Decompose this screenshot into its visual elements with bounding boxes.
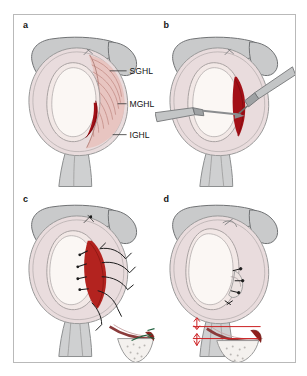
- figure-frame: a: [13, 14, 296, 363]
- panel-a: a: [14, 15, 155, 189]
- panel-d-illustration: [155, 189, 296, 363]
- panel-b-illustration: [155, 15, 296, 189]
- glenoid-articular-surface: [185, 228, 238, 309]
- label-sghl: SGHL: [130, 66, 154, 76]
- panel-d: d: [155, 189, 296, 363]
- panel-c: c: [14, 189, 155, 363]
- figure-panel-group: a: [0, 0, 307, 376]
- panel-c-inset-cross-section: [110, 324, 155, 362]
- inferior-capsule-tail: [59, 318, 92, 356]
- panel-a-illustration: SGHL MGHL IGHL: [14, 15, 155, 189]
- label-mghl: MGHL: [130, 99, 155, 109]
- panel-b: b: [155, 15, 296, 189]
- panel-c-illustration: [14, 189, 155, 363]
- label-ighl: IGHL: [130, 130, 150, 140]
